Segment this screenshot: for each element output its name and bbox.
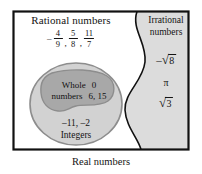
irrational-value-0-radicand: 8	[168, 54, 176, 67]
integers-label-group: –11, –2 Integers	[61, 117, 92, 142]
square-root-icon: √8	[162, 54, 176, 67]
rational-value-1: 5 8	[69, 29, 78, 48]
whole-numbers-value-0: 0	[92, 80, 97, 91]
rational-value-1-denominator: 8	[70, 40, 76, 49]
integers-label: Integers	[61, 129, 92, 141]
real-numbers-caption: Real numbers	[72, 156, 130, 167]
real-number-venn-diagram: Rational numbers – 4 9 , 5 8 , 11 7 Irra…	[0, 0, 202, 174]
rational-value-0-sign: –	[47, 34, 52, 43]
rational-value-2-numerator: 11	[84, 29, 94, 38]
rational-separator-0: ,	[64, 39, 66, 48]
irrational-value-2: √3	[159, 97, 173, 110]
rational-value-2: 11 7	[84, 29, 94, 48]
whole-numbers-label-line1: Whole 0	[52, 80, 107, 91]
rational-separator-1: ,	[80, 39, 82, 48]
rational-value-2-denominator: 7	[86, 40, 92, 49]
rational-numbers-values: – 4 9 , 5 8 , 11 7	[47, 29, 95, 48]
irrational-value-1: π	[163, 78, 168, 89]
whole-numbers-label-text: Whole	[62, 80, 86, 91]
whole-numbers-values: 6, 15	[89, 91, 107, 102]
whole-numbers-label-line2: numbers 6, 15	[52, 91, 107, 102]
integers-values: –11, –2	[61, 117, 92, 129]
square-root-icon: √3	[159, 97, 173, 110]
rational-value-0: 4 9	[53, 29, 62, 48]
rational-value-1-numerator: 5	[70, 29, 76, 38]
rational-value-0-denominator: 9	[55, 40, 61, 49]
whole-numbers-label: Whole 0 numbers 6, 15	[52, 80, 107, 103]
rational-numbers-heading: Rational numbers	[31, 15, 111, 27]
irrational-value-2-radicand: 3	[165, 97, 173, 110]
rational-value-0-numerator: 4	[55, 29, 61, 38]
whole-numbers-label-text-2: numbers	[52, 91, 83, 102]
irrational-value-0: –√8	[156, 54, 176, 67]
irrational-numbers-heading: Irrational numbers	[137, 15, 195, 39]
